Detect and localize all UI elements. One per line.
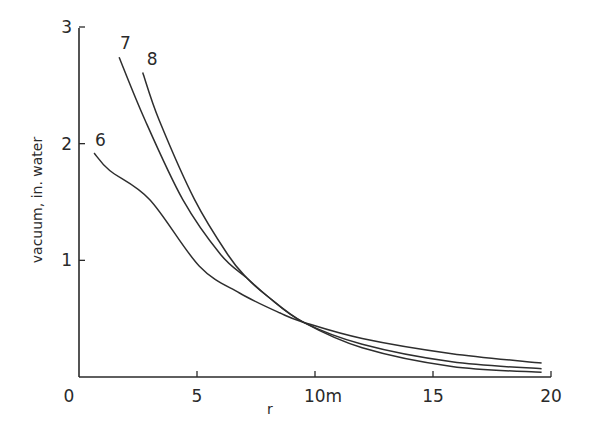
y-axis-label: vacuum, in. water bbox=[29, 137, 45, 264]
series-label-7: 7 bbox=[120, 33, 131, 53]
chart: 0510m1520123 678 r vacuum, in. water bbox=[0, 0, 593, 440]
x-tick-label: 5 bbox=[192, 386, 203, 406]
series-label-8: 8 bbox=[147, 49, 158, 69]
y-tick-label: 3 bbox=[61, 17, 72, 37]
x-tick-label: 20 bbox=[540, 386, 562, 406]
series-line-6 bbox=[94, 153, 541, 363]
curves bbox=[94, 57, 541, 372]
y-tick-label: 2 bbox=[61, 134, 72, 154]
y-tick-label: 1 bbox=[61, 250, 72, 270]
ticks: 0510m1520123 bbox=[61, 17, 562, 406]
axes bbox=[79, 28, 551, 377]
series-line-7 bbox=[119, 57, 541, 372]
series-line-8 bbox=[143, 73, 542, 369]
x-tick-label: 10m bbox=[304, 386, 342, 406]
x-tick-label: 0 bbox=[64, 386, 75, 406]
x-axis-label: r bbox=[267, 401, 273, 417]
x-tick-label: 15 bbox=[422, 386, 444, 406]
series-label-6: 6 bbox=[95, 130, 106, 150]
